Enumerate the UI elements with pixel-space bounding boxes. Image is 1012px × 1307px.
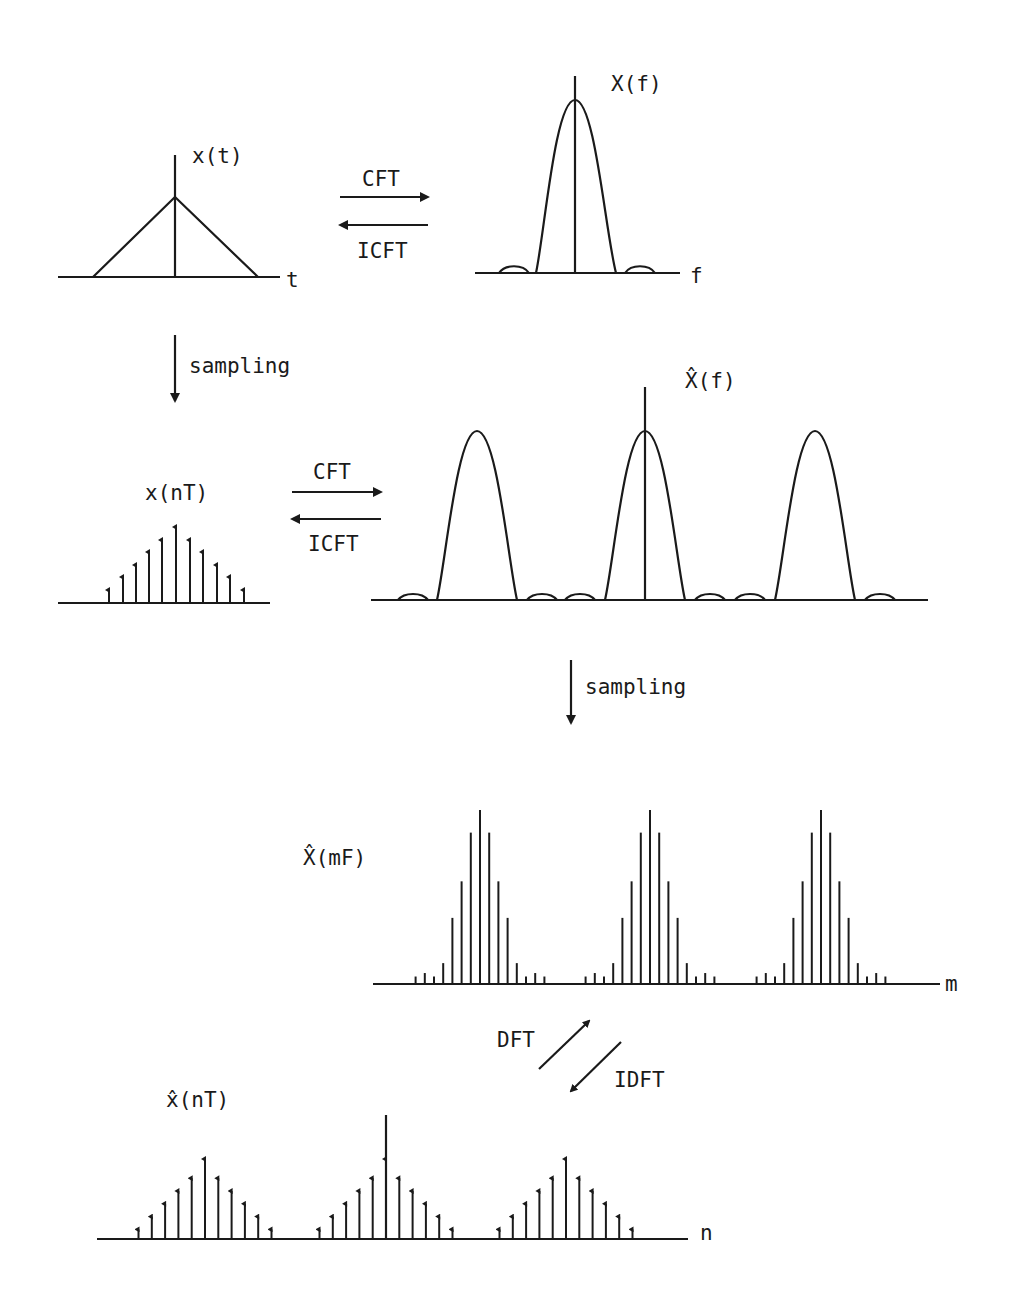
label-cft-1: CFT xyxy=(362,167,400,191)
arrow-up-right-icon xyxy=(539,1021,589,1069)
panel-xhat-nT: x̂(nT) n xyxy=(97,1088,713,1245)
label-idft: IDFT xyxy=(614,1068,665,1092)
panel-x-nT: x(nT) xyxy=(58,481,270,603)
samples xyxy=(109,527,244,603)
lobe-left xyxy=(437,431,517,600)
sampling-arrow-1: sampling xyxy=(175,335,290,401)
lobe-right xyxy=(775,431,855,600)
label-X-f: X(f) xyxy=(611,72,662,96)
time-samples xyxy=(139,1159,633,1239)
cft-icft-arrows-2: CFT ICFT xyxy=(292,460,381,556)
label-sampling-1: sampling xyxy=(189,354,290,378)
label-xhat-nT: x̂(nT) xyxy=(166,1088,229,1112)
label-sampling-2: sampling xyxy=(585,675,686,699)
label-Xhat-mF: X̂(mF) xyxy=(303,844,366,870)
label-m-axis: m xyxy=(945,972,958,996)
label-x-t: x(t) xyxy=(192,144,243,168)
label-cft-2: CFT xyxy=(313,460,351,484)
label-t-axis: t xyxy=(286,268,299,292)
label-f-axis: f xyxy=(690,264,703,288)
label-x-nT: x(nT) xyxy=(145,481,208,505)
label-dft: DFT xyxy=(497,1028,535,1052)
label-Xhat-f: X̂(f) xyxy=(685,367,736,393)
cft-icft-arrows-1: CFT ICFT xyxy=(340,167,428,263)
label-icft-1: ICFT xyxy=(357,239,408,263)
panel-Xhat-f: X̂(f) xyxy=(371,367,928,600)
sampling-arrow-2: sampling xyxy=(571,660,686,723)
panel-Xhat-mF: X̂(mF) m xyxy=(303,810,958,996)
dft-idft-arrows: DFT IDFT xyxy=(497,1021,665,1092)
panel-X-f: X(f) f xyxy=(475,72,703,288)
label-n-axis: n xyxy=(700,1221,713,1245)
fourier-transform-relationships-diagram: x(t) t CFT ICFT X(f) f sampling xyxy=(0,0,1012,1307)
label-icft-2: ICFT xyxy=(308,532,359,556)
panel-x-t: x(t) t xyxy=(58,144,299,292)
spectral-samples xyxy=(416,810,886,984)
